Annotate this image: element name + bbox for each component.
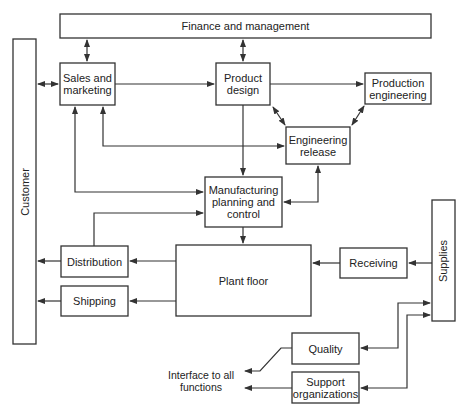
production-engineering-label: Production engineering: [365, 73, 431, 104]
product-design-label: Product design: [218, 63, 268, 105]
distribution-label: Distribution: [61, 246, 128, 277]
support-label: Support organizations: [292, 372, 359, 403]
arrow-sales-engrelease: [103, 107, 284, 146]
finance-label: Finance and management: [60, 14, 431, 38]
supplies-label-wrap: Supplies: [432, 200, 455, 321]
arrow-engrelease-mfg: [284, 166, 318, 202]
customer-label-wrap: Customer: [13, 39, 36, 344]
supplies-label: Supplies: [438, 239, 450, 281]
arrow-support-supplies: [361, 315, 430, 388]
arrow-sales-mfg: [75, 107, 203, 192]
arrow-product-engrelease: [273, 107, 285, 125]
arrow-quality-interface: [245, 348, 292, 371]
arrow-distribution-mfg: [94, 213, 203, 246]
interface-label: Interface to all functions: [162, 366, 240, 396]
receiving-label: Receiving: [340, 248, 407, 278]
mfg-planning-label: Manufacturing planning and control: [207, 177, 280, 227]
engineering-release-label: Engineering release: [288, 127, 348, 164]
shipping-label: Shipping: [61, 286, 128, 316]
arrow-prodeng-engrelease: [352, 106, 364, 125]
customer-label: Customer: [19, 168, 31, 216]
quality-label: Quality: [292, 333, 359, 364]
sales-label: Sales and marketing: [62, 63, 113, 105]
plant-floor-label: Plant floor: [176, 245, 311, 316]
arrow-quality-supplies: [361, 303, 430, 348]
